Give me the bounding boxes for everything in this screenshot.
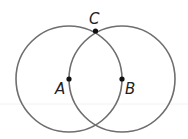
label-A: A (54, 80, 65, 98)
point-A (66, 76, 71, 81)
point-C (93, 28, 98, 33)
label-C: C (89, 10, 100, 28)
label-B: B (125, 80, 135, 98)
geometry-figure: A B C (0, 0, 188, 139)
point-B (119, 76, 124, 81)
diagram-canvas: A B C (0, 0, 188, 139)
